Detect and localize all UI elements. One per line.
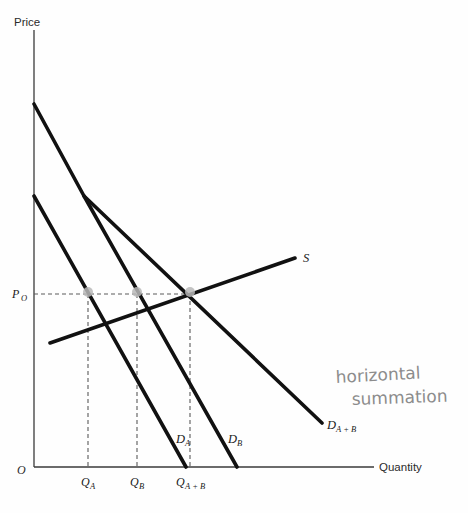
price-level-label: P — [11, 287, 20, 301]
origin-label: O — [17, 463, 26, 477]
intersection-demand-b-marker — [132, 287, 142, 297]
demand-a-label-sub: A — [184, 438, 191, 448]
demand-b-curve — [84, 196, 237, 467]
demand-b-label-sub: B — [237, 438, 242, 448]
demand-a-label: D — [175, 432, 185, 446]
tick-label-q-a-sub: A — [89, 481, 96, 491]
handwritten-note-line1: horizontal — [335, 363, 421, 387]
price-level-label-sub: O — [21, 293, 27, 303]
demand-b-label: D — [227, 432, 237, 446]
tick-label-q-a-plus-b-sub: A + B — [184, 481, 205, 491]
intersection-demand-a-plus-b-marker — [185, 287, 195, 297]
diagram-canvas: Price Quantity O P O S D A D B D A + B Q… — [0, 0, 468, 513]
demand-a-curve — [34, 196, 186, 467]
demand-a-plus-b-label-sub: A + B — [335, 424, 356, 434]
tick-label-q-b-sub: B — [139, 481, 144, 491]
tick-label-q-a-plus-b: Q — [176, 475, 185, 489]
handwritten-note-line2: summation — [351, 386, 447, 409]
tick-label-q-b: Q — [130, 475, 139, 489]
tick-label-q-a: Q — [81, 475, 90, 489]
supply-curve — [50, 258, 295, 343]
x-axis-title: Quantity — [379, 461, 422, 473]
supply-demand-figure: Price Quantity O P O S D A D B D A + B Q… — [0, 0, 468, 513]
supply-curve-label: S — [303, 251, 310, 265]
demand-a-plus-b-label: D — [326, 418, 336, 432]
intersection-demand-a-marker — [83, 287, 93, 297]
y-axis-title: Price — [14, 16, 40, 28]
